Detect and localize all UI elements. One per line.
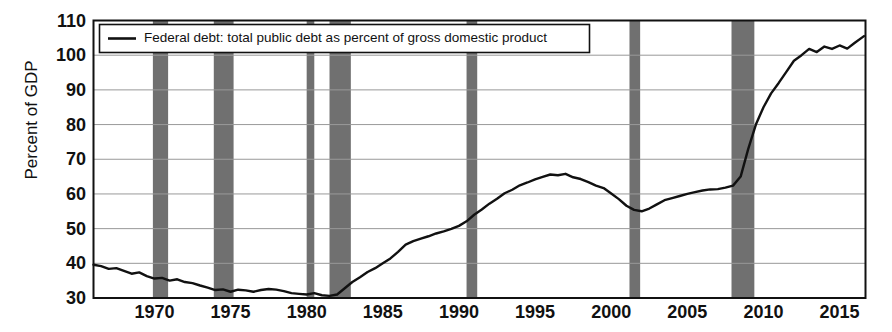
plot-canvas: [0, 0, 892, 332]
chart-figure: Percent of GDP 30405060708090100110 1970…: [0, 0, 892, 332]
legend-label: Federal debt: total public debt as perce…: [144, 31, 547, 45]
